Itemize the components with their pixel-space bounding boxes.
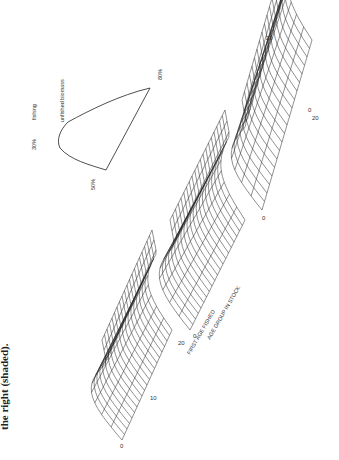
tick-20-d: 20 bbox=[266, 35, 273, 41]
tick-0-c: 0 bbox=[262, 215, 266, 221]
surface-label-80: 80% bbox=[157, 69, 163, 80]
surface-label-fishing: fishing bbox=[31, 104, 37, 120]
tick-10-a: 10 bbox=[150, 395, 157, 401]
surface-label-50: 50% bbox=[90, 179, 96, 190]
tick-0-a: 0 bbox=[120, 443, 124, 449]
figure-surfaces: 30% fishing 50% 80% unfished biomass FIR… bbox=[0, 0, 339, 460]
tick-20-c: 20 bbox=[312, 115, 319, 121]
tick-0-d: 0 bbox=[308, 107, 312, 113]
surface-label-30: 30% bbox=[31, 139, 37, 150]
unfished-biomass-curve bbox=[58, 88, 150, 170]
inset-label: unfished biomass bbox=[59, 79, 65, 122]
tick-20-a: 20 bbox=[178, 340, 185, 346]
